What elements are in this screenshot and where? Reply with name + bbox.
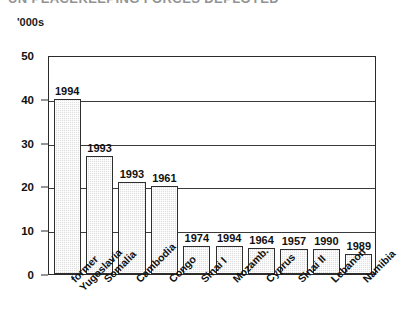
bar-item: 1964 — [248, 55, 275, 274]
cut-off-page-title: UN PEACEKEEPING FORCES DEPLOYED — [0, 0, 394, 13]
bar-item: 1994 — [54, 55, 81, 274]
y-tick-label: 10 — [21, 225, 34, 237]
x-axis-category-labels: formerYugoslaviaSomaliaCambodiaCongoSina… — [48, 277, 376, 334]
y-tick-mark — [41, 231, 48, 232]
bar-item: 1994 — [216, 55, 243, 274]
bar-item: 1957 — [280, 55, 307, 274]
chart-plot-area: 1994199319931961197419941964195719901989 — [48, 56, 376, 275]
y-tick-label: 20 — [21, 181, 34, 193]
bar-value-label: 1993 — [120, 168, 144, 180]
bar — [54, 99, 81, 274]
bar-value-label: 1974 — [185, 232, 209, 244]
bar-value-label: 1994 — [55, 85, 79, 97]
y-tick-label: 40 — [21, 94, 34, 106]
y-tick-mark — [41, 143, 48, 144]
bar-value-label: 1993 — [87, 142, 111, 154]
y-tick-label: 50 — [21, 50, 34, 62]
y-axis-unit-label: '000s — [17, 16, 44, 28]
bar-item: 1961 — [151, 55, 178, 274]
bar-series: 1994199319931961197419941964195719901989 — [49, 57, 375, 274]
y-tick-mark — [41, 187, 48, 188]
bar-value-label: 1990 — [314, 235, 338, 247]
bar-value-label: 1961 — [152, 172, 176, 184]
bar-value-label: 1994 — [217, 232, 241, 244]
page-title-text: UN PEACEKEEPING FORCES DEPLOYED — [8, 0, 279, 6]
y-tick-label: 30 — [21, 138, 34, 150]
y-tick-mark — [41, 275, 48, 276]
bar-item: 1990 — [313, 55, 340, 274]
bar-item: 1993 — [118, 55, 145, 274]
y-tick-label: 0 — [28, 269, 34, 281]
bar-value-label: 1957 — [282, 235, 306, 247]
y-tick-mark — [41, 99, 48, 100]
y-axis: 01020304050 — [0, 56, 48, 275]
bar-item: 1974 — [183, 55, 210, 274]
bar-item: 1989 — [345, 55, 372, 274]
